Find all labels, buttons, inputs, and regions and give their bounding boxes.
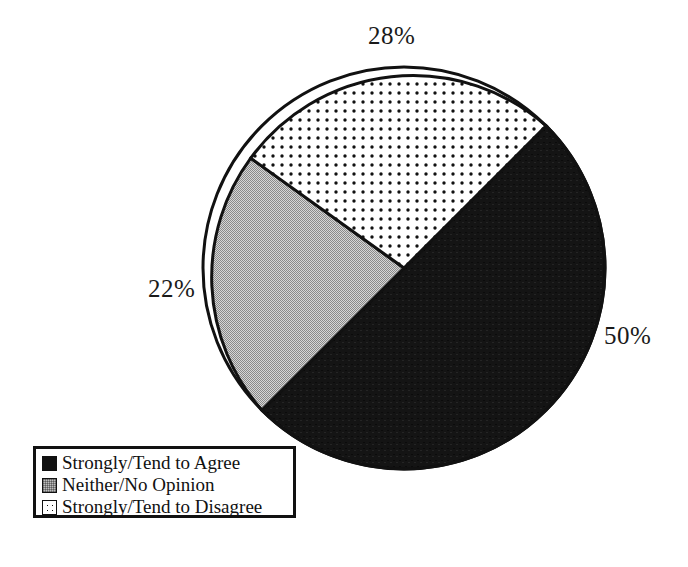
gray-checker-swatch-icon [42,478,57,493]
white-dots-swatch-icon [42,500,57,515]
pie-label-neither: 22% [148,275,195,303]
legend-label-agree: Strongly/Tend to Agree [62,453,240,473]
legend-label-disagree: Strongly/Tend to Disagree [62,497,262,517]
legend-label-neither: Neither/No Opinion [62,475,215,495]
legend-item-disagree: Strongly/Tend to Disagree [42,496,288,518]
legend-item-agree: Strongly/Tend to Agree [42,452,288,474]
pie-chart-figure: 28% 22% 50% Strongly/Tend to Agree Neith… [0,0,688,567]
legend-item-neither: Neither/No Opinion [42,474,288,496]
solid-black-swatch-icon [42,456,57,471]
pie-label-agree: 50% [604,322,651,350]
chart-legend: Strongly/Tend to Agree Neither/No Opinio… [33,446,296,518]
pie-label-disagree: 28% [368,22,415,50]
